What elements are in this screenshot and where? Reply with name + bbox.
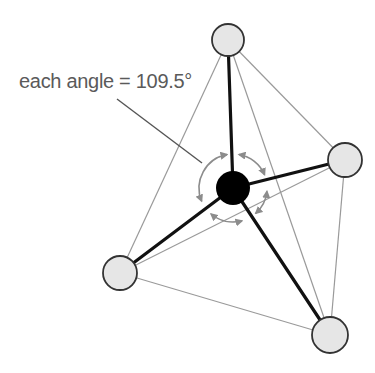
atom-left	[103, 256, 137, 290]
label-pointer-line	[117, 99, 202, 163]
angle-arc-bottom-left	[211, 214, 242, 222]
tetrahedral-geometry-diagram: each angle = 109.5°	[0, 0, 375, 373]
atom-right	[328, 143, 362, 177]
atom-top	[212, 24, 244, 56]
edge-top-right	[228, 40, 345, 160]
bond-top	[228, 40, 233, 188]
central-atom	[216, 171, 250, 205]
edge-right-bottom	[330, 160, 345, 335]
bond-left	[120, 188, 233, 273]
bond-bottom-right	[233, 188, 330, 335]
angle-label: each angle = 109.5°	[19, 70, 192, 92]
angle-arc-top-right	[239, 155, 264, 175]
atom-bottom-right	[312, 317, 348, 353]
edge-left-bottom	[120, 273, 330, 335]
